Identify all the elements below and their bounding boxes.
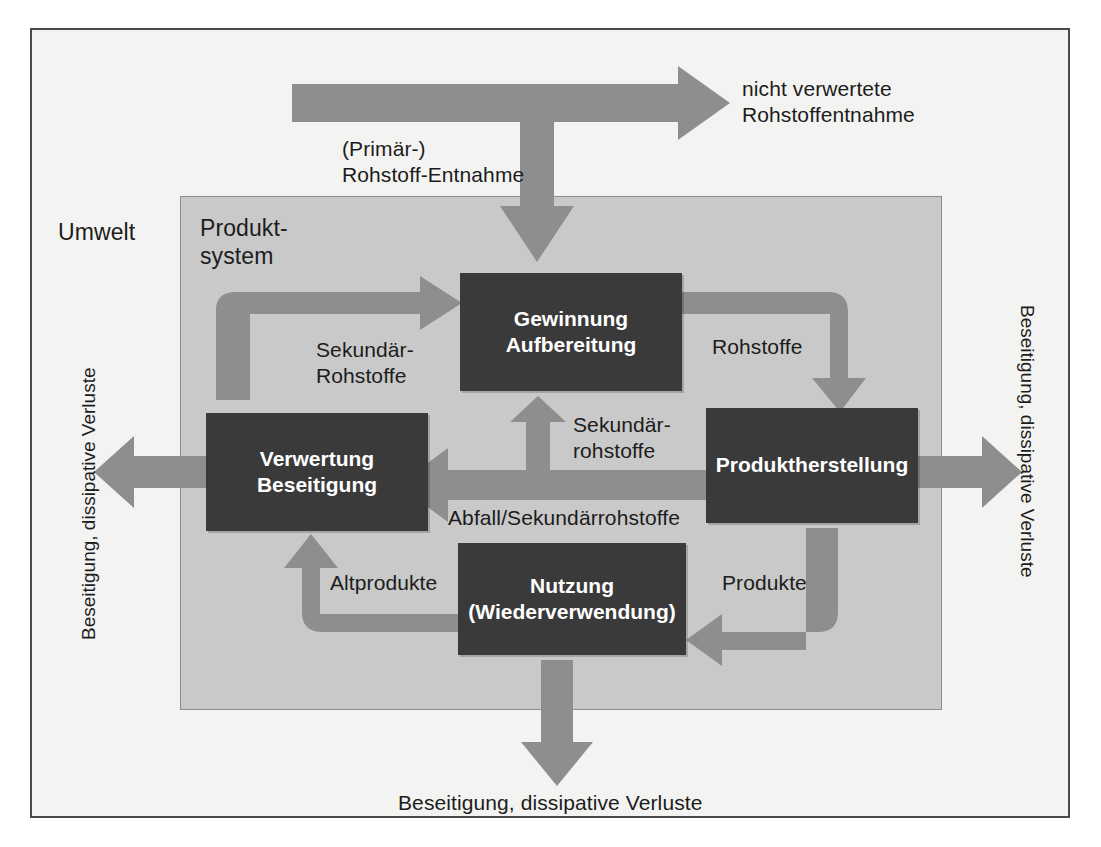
flow-label-rohstoffe: Rohstoffe [712, 334, 802, 360]
flow-label-produkte: Produkte [722, 570, 807, 596]
flow-label-sekundaerrohstoffe-mitte: Sekundär- rohstoffe [573, 412, 671, 463]
process-box-nutzung[interactable]: Nutzung (Wiederverwendung) [458, 543, 686, 655]
process-box-gewinnung-aufbereitung[interactable]: Gewinnung Aufbereitung [460, 273, 682, 391]
flow-label-abfall-sekundaerrohstoffe: Abfall/Sekundärrohstoffe [448, 505, 680, 531]
environment-label: Umwelt [58, 218, 135, 246]
diagram-canvas: Umwelt Produkt- system Gewinnung Aufbere… [0, 0, 1101, 847]
process-box-verwertung-beseitigung[interactable]: Verwertung Beseitigung [206, 413, 428, 531]
flow-label-altprodukte: Altprodukte [330, 570, 437, 596]
process-box-produktherstellung[interactable]: Produktherstellung [706, 408, 918, 523]
flow-label-beseitigung-unten: Beseitigung, dissipative Verluste [398, 790, 702, 816]
flow-label-beseitigung-links: Beseitigung, dissipative Verluste [78, 368, 100, 641]
flow-label-nicht-verwertete-rohstoffentnahme: nicht verwertete Rohstoffentnahme [742, 76, 915, 127]
flow-label-primaer-rohstoff-entnahme: (Primär-) Rohstoff-Entnahme [342, 136, 524, 187]
flow-label-sekundaer-rohstoffe: Sekundär- Rohstoffe [316, 337, 414, 388]
flow-label-beseitigung-rechts: Beseitigung, dissipative Verluste [1016, 305, 1038, 578]
product-system-label: Produkt- system [200, 214, 288, 270]
